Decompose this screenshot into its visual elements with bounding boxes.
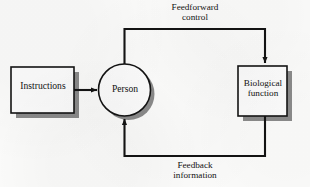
edge-feedforward	[125, 29, 266, 64]
diagram-canvas: Instructions Person Biological function …	[0, 0, 310, 187]
edge-feedback	[125, 116, 266, 156]
biological-function-label: Biological function	[238, 79, 288, 99]
instructions-label: Instructions	[13, 81, 73, 91]
person-label: Person	[100, 84, 150, 94]
feedback-information-label: Feedback information	[150, 160, 240, 181]
feedforward-control-label: Feedforward control	[150, 2, 240, 23]
